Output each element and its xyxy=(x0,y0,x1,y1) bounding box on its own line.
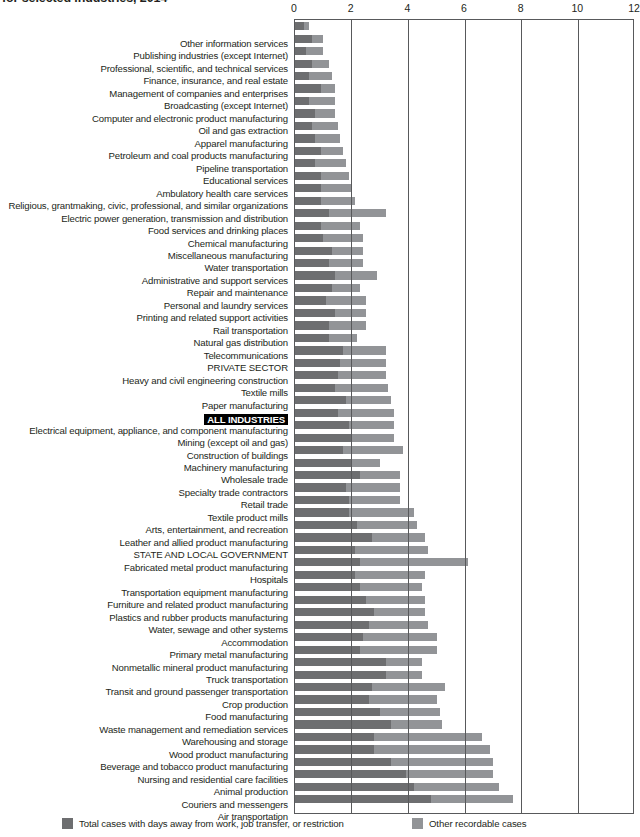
stacked-bar xyxy=(295,247,363,255)
bar-segment-days-away xyxy=(295,209,329,217)
category-label: Broadcasting (except Internet) xyxy=(164,100,288,112)
category-label: Arts, entertainment, and recreation xyxy=(146,524,288,536)
category-label: STATE AND LOCAL GOVERNMENT xyxy=(134,549,288,561)
bar-segment-other-recordable xyxy=(321,147,344,155)
bar-segment-days-away xyxy=(295,409,338,417)
category-label: Fabricated metal product manufacturing xyxy=(124,562,288,574)
stacked-bar xyxy=(295,733,482,741)
category-label: Paper manufacturing xyxy=(202,400,288,412)
stacked-bar xyxy=(295,671,422,679)
bar-segment-days-away xyxy=(295,533,372,541)
bar-segment-other-recordable xyxy=(338,371,386,379)
bar-segment-days-away xyxy=(295,259,329,267)
stacked-bar xyxy=(295,409,394,417)
bar-segment-other-recordable xyxy=(321,222,361,230)
x-axis-tick-8: 8 xyxy=(518,2,524,14)
bar-segment-other-recordable xyxy=(340,359,385,367)
bar-segment-other-recordable xyxy=(391,720,442,728)
bar-segment-days-away xyxy=(295,683,372,691)
bar-segment-days-away xyxy=(295,708,380,716)
bar-segment-other-recordable xyxy=(374,745,490,753)
stacked-bar xyxy=(295,658,422,666)
bar-segment-days-away xyxy=(295,247,332,255)
bar-segment-other-recordable xyxy=(315,134,341,142)
category-label: Petroleum and coal products manufacturin… xyxy=(109,150,288,162)
stacked-bar xyxy=(295,471,400,479)
bar-segment-days-away xyxy=(295,508,349,516)
bar-segment-other-recordable xyxy=(369,695,437,703)
stacked-bar xyxy=(295,84,335,92)
bar-segment-other-recordable xyxy=(309,72,332,80)
category-label: Apparel manufacturing xyxy=(195,138,288,150)
category-label: Transit and ground passenger transportat… xyxy=(105,686,288,698)
stacked-bar xyxy=(295,496,400,504)
x-axis-tick-0: 0 xyxy=(291,2,297,14)
gridline-4 xyxy=(408,20,409,813)
category-label: Finance, insurance, and real estate xyxy=(143,75,288,87)
stacked-bar xyxy=(295,396,391,404)
bar-segment-days-away xyxy=(295,459,352,467)
bar-segment-days-away xyxy=(295,783,414,791)
bar-segment-other-recordable xyxy=(360,471,400,479)
stacked-bar xyxy=(295,296,366,304)
category-label: Computer and electronic product manufact… xyxy=(92,113,288,125)
bar-segment-days-away xyxy=(295,521,357,529)
stacked-bar xyxy=(295,795,513,803)
category-label: Professional, scientific, and technical … xyxy=(101,63,288,75)
bar-segment-days-away xyxy=(295,321,329,329)
category-label: Repair and maintenance xyxy=(187,287,288,299)
x-axis-tick-labels: 024681012 xyxy=(294,0,634,19)
bar-segment-other-recordable xyxy=(304,22,310,30)
bar-segment-days-away xyxy=(295,421,349,429)
category-label: Warehousing and storage xyxy=(182,736,288,748)
stacked-bar xyxy=(295,608,425,616)
x-axis-tick-4: 4 xyxy=(404,2,410,14)
chart-title: for selected industries, 2014 xyxy=(2,0,302,13)
category-label: Miscellaneous manufacturing xyxy=(168,250,288,262)
bar-segment-days-away xyxy=(295,172,321,180)
bar-segment-other-recordable xyxy=(349,508,414,516)
bar-segment-other-recordable xyxy=(326,296,366,304)
stacked-bar xyxy=(295,321,366,329)
category-label: Wood product manufacturing xyxy=(169,749,288,761)
stacked-bar xyxy=(295,521,417,529)
stacked-bar xyxy=(295,421,394,429)
bar-segment-days-away xyxy=(295,671,386,679)
category-label: Management of companies and enterprises xyxy=(109,88,288,100)
bar-segment-other-recordable xyxy=(315,159,346,167)
bar-segment-other-recordable xyxy=(309,97,335,105)
category-label: Textile mills xyxy=(241,387,288,399)
chart-title-line: for selected industries, 2014 xyxy=(2,0,302,5)
plot-area xyxy=(294,19,634,814)
legend-swatch-icon-other-recordable xyxy=(412,818,423,829)
category-label: Accommodation xyxy=(221,637,288,649)
bar-segment-other-recordable xyxy=(406,770,494,778)
legend-item-other-recordable: Other recordable cases xyxy=(412,818,527,829)
stacked-bar xyxy=(295,159,346,167)
category-label: Pipeline transportation xyxy=(196,163,288,175)
bar-segment-days-away xyxy=(295,596,366,604)
bar-segment-days-away xyxy=(295,147,321,155)
category-label: Natural gas distribution xyxy=(193,337,288,349)
bar-segment-other-recordable xyxy=(306,47,323,55)
bar-segment-days-away xyxy=(295,571,355,579)
category-label: Religious, grantmaking, civic, professio… xyxy=(8,200,288,212)
stacked-bar xyxy=(295,633,437,641)
stacked-bar xyxy=(295,134,340,142)
category-label: Specialty trade contractors xyxy=(178,487,288,499)
x-axis-tick-2: 2 xyxy=(348,2,354,14)
stacked-bar xyxy=(295,346,386,354)
category-label: Truck transportation xyxy=(206,674,288,686)
bar-segment-other-recordable xyxy=(315,109,335,117)
bar-segment-other-recordable xyxy=(343,346,386,354)
gridline-6 xyxy=(465,20,466,813)
category-label: Electric power generation, transmission … xyxy=(61,213,288,225)
category-label: Food services and drinking places xyxy=(148,225,288,237)
category-label: Heavy and civil engineering construction xyxy=(122,375,288,387)
bar-segment-days-away xyxy=(295,122,312,130)
stacked-bar xyxy=(295,359,386,367)
bar-segment-other-recordable xyxy=(372,533,426,541)
bar-segment-other-recordable xyxy=(335,271,378,279)
bar-segment-other-recordable xyxy=(374,733,482,741)
bar-segment-other-recordable xyxy=(380,708,440,716)
